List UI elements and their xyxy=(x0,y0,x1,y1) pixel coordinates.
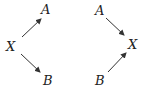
arrow-b-to-x xyxy=(108,53,126,72)
node-a-label: A xyxy=(94,3,104,18)
arrow-a-to-x xyxy=(106,18,124,35)
node-x-label: X xyxy=(5,39,16,54)
diagram-canvas: A X B A X B xyxy=(0,0,146,93)
right-diagram: A X B xyxy=(94,3,138,88)
arrow-x-to-b xyxy=(21,54,40,72)
left-diagram: A X B xyxy=(5,2,53,88)
node-x-label: X xyxy=(127,37,138,52)
node-a-label: A xyxy=(40,2,50,17)
node-b-label: B xyxy=(42,73,53,88)
node-b-label: B xyxy=(94,73,105,88)
arrow-x-to-a xyxy=(22,19,41,37)
